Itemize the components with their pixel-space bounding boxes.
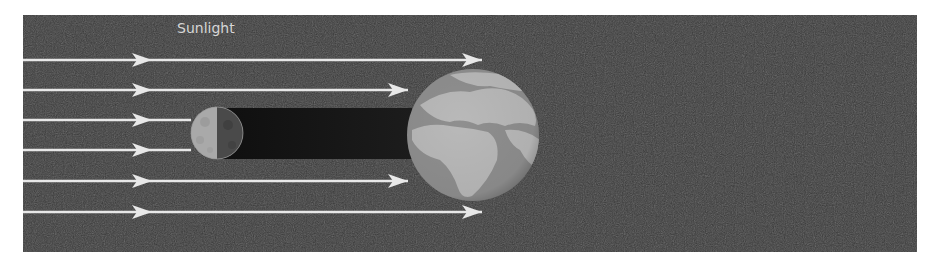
sunlight-label: Sunlight [177,20,235,36]
earth-shading [407,69,539,201]
lunar-eclipse-diagram: Sunlight [0,0,929,263]
moon-crater [200,117,210,127]
earth [407,69,540,201]
moon-crater [228,141,236,149]
moon-crater [207,147,213,153]
moon-crater [223,120,233,130]
moon-crater [196,136,204,144]
earth-shadow-umbra [217,108,412,159]
